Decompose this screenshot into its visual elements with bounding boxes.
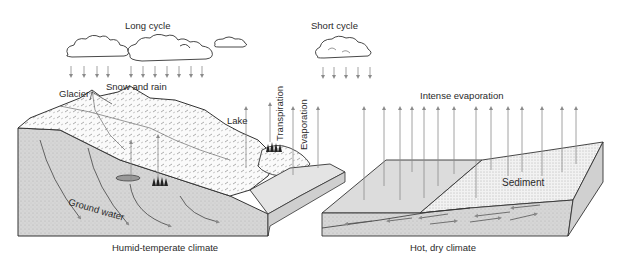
intense-evaporation-label: Intense evaporation xyxy=(420,91,503,101)
short-cycle-label: Short cycle xyxy=(311,21,358,31)
long-cycle-label: Long cycle xyxy=(125,21,170,31)
evaporation-label: Evaporation xyxy=(299,99,309,150)
cloud-icon xyxy=(215,37,247,47)
sediment-label: Sediment xyxy=(502,178,544,188)
cloud-icon xyxy=(128,34,212,61)
water-cycle-diagram xyxy=(0,0,622,260)
snow-and-rain-label: Snow and rain xyxy=(106,82,167,92)
transpiration-label: Transpiration xyxy=(275,86,285,141)
cloud-icon xyxy=(67,35,129,57)
glacier-label: Glacier xyxy=(59,89,89,99)
lake-label: Lake xyxy=(227,116,248,126)
dry-climate-caption: Hot, dry climate xyxy=(410,243,476,253)
valley-lake xyxy=(116,175,140,181)
humid-climate-caption: Humid-temperate climate xyxy=(112,243,218,253)
rain-arrows xyxy=(71,66,370,77)
cloud-icon xyxy=(315,36,371,58)
